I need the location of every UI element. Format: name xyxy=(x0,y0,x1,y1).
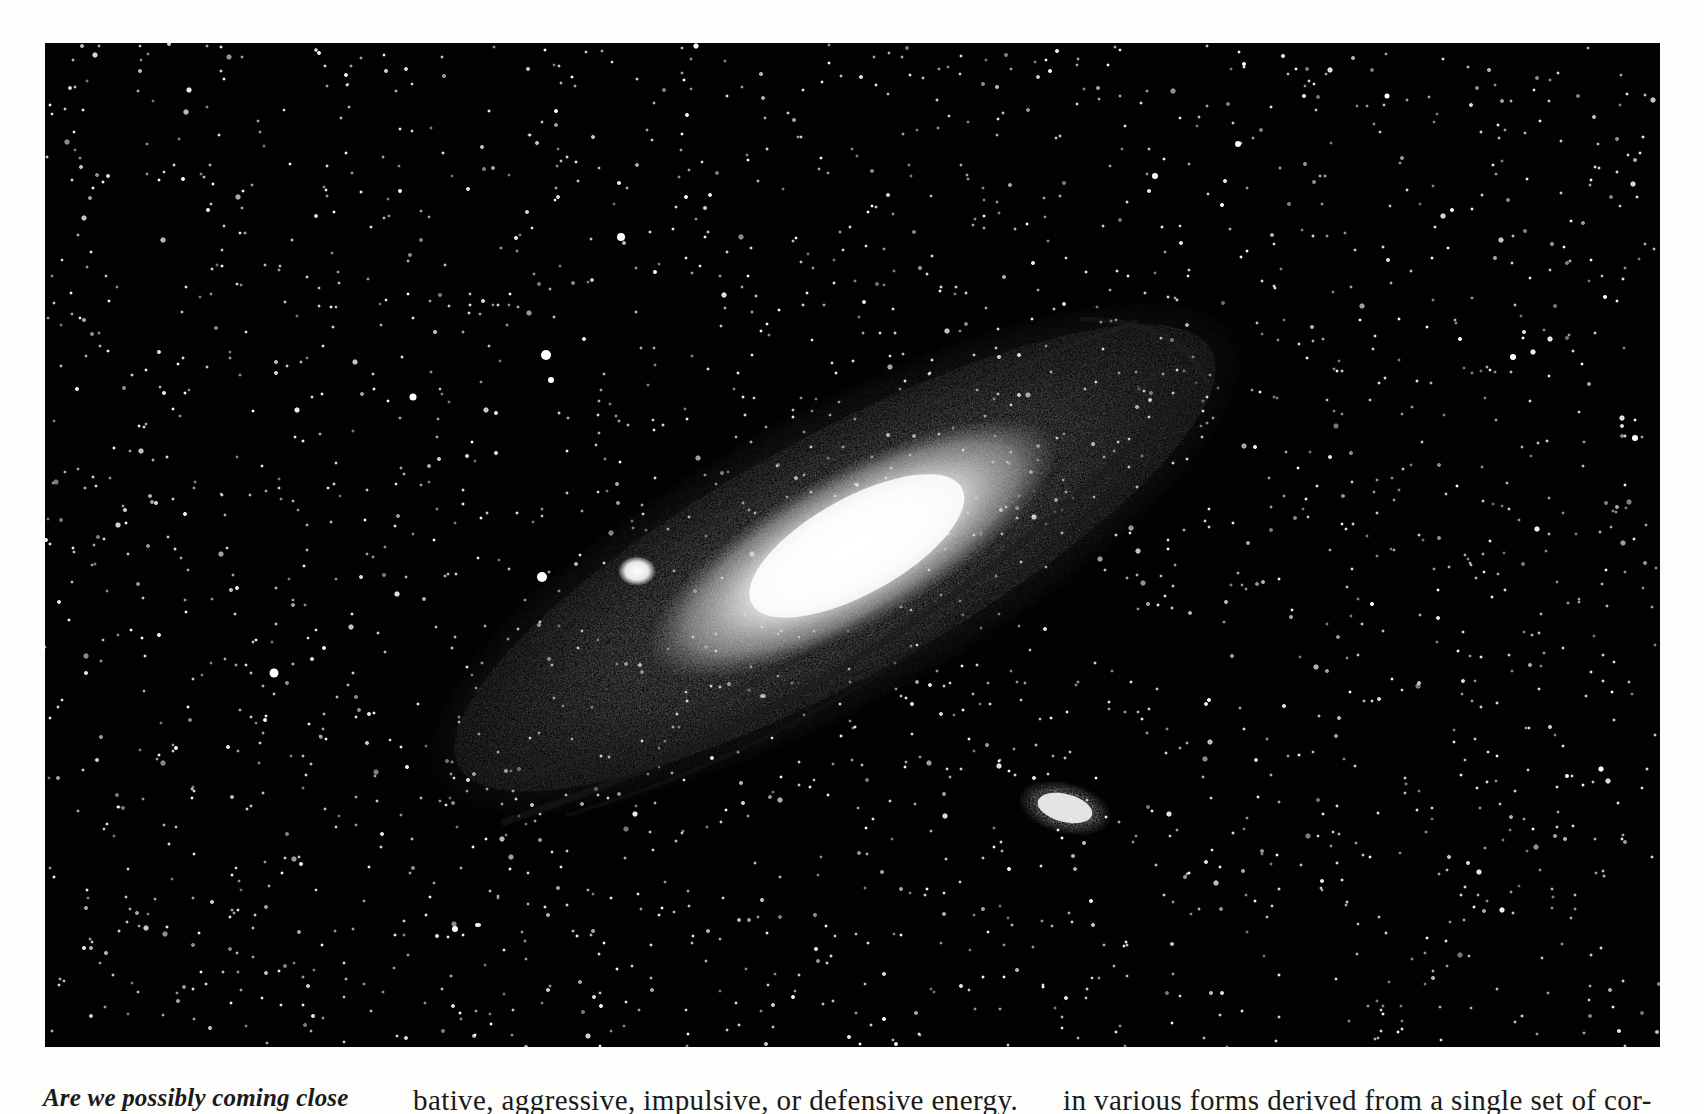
figure-caption: Are we possibly coming close xyxy=(43,1084,349,1112)
galaxy-photograph xyxy=(45,43,1660,1047)
text-row: Are we possibly coming close bative, agg… xyxy=(0,1084,1704,1114)
body-text-column-3: in various forms derived from a single s… xyxy=(1063,1084,1652,1114)
companion-galaxy-m110 xyxy=(1012,771,1118,845)
galaxy-disk xyxy=(320,176,1350,941)
galaxy-illustration xyxy=(45,43,1660,1047)
body-text-column-2: bative, aggressive, impulsive, or defens… xyxy=(413,1084,1018,1114)
companion-galaxy-m32 xyxy=(618,556,656,586)
